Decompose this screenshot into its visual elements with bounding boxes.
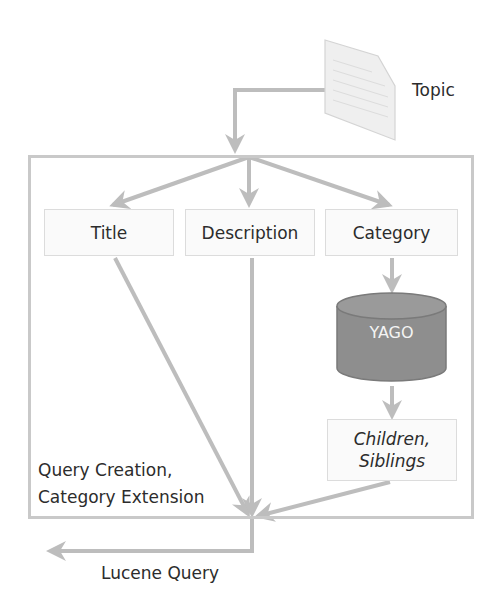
yago-label: YAGO bbox=[335, 323, 448, 342]
title-box: Title bbox=[44, 209, 174, 256]
frame-label-line2: Category Extension bbox=[38, 487, 205, 507]
topic-to-junction-arrow bbox=[235, 90, 340, 150]
siblings-label: Siblings bbox=[359, 450, 425, 472]
lucene-query-label: Lucene Query bbox=[101, 563, 219, 583]
category-label: Category bbox=[353, 223, 431, 243]
children-siblings-box: Children, Siblings bbox=[327, 419, 457, 481]
frame-label-line1: Query Creation, bbox=[38, 460, 172, 480]
category-box: Category bbox=[325, 209, 458, 256]
description-label: Description bbox=[202, 223, 299, 243]
topic-label: Topic bbox=[412, 80, 455, 100]
document-icon bbox=[325, 40, 395, 140]
description-box: Description bbox=[185, 209, 315, 256]
output-arrow bbox=[50, 519, 252, 551]
children-label: Children, bbox=[354, 428, 431, 450]
title-label: Title bbox=[91, 223, 127, 243]
